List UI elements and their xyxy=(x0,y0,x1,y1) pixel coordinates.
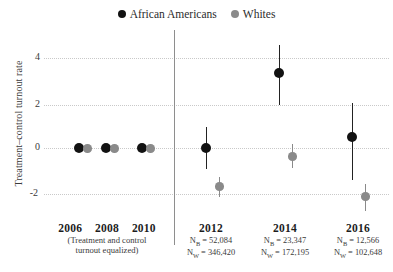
point-2012-african-americans xyxy=(201,143,211,153)
x-n-white-2012: NW = 346,420 xyxy=(171,248,251,260)
point-2006-whites xyxy=(83,144,92,153)
y-tick-2: 2 xyxy=(20,98,40,109)
y-tick-4: 4 xyxy=(20,51,40,62)
figure: African Americans Whites Treatment–contr… xyxy=(0,0,393,272)
x-label-2014: 2014 xyxy=(245,222,325,234)
n-value: = 52,084 xyxy=(200,236,232,245)
pre-period-note-line2: turnout equalized) xyxy=(42,245,172,255)
x-n-white-2016: NW = 102,648 xyxy=(318,248,393,260)
n-value: = 172,195 xyxy=(273,248,309,257)
point-2016-african-americans xyxy=(347,132,357,142)
y-tick-0: 0 xyxy=(20,141,40,152)
y-axis-label: Treatment–control turnout rate xyxy=(13,44,24,204)
point-2014-african-americans xyxy=(274,68,284,78)
y-tick-neg2: -2 xyxy=(18,187,38,198)
x-label-2008: 2008 xyxy=(95,222,119,234)
gridline-2 xyxy=(44,105,389,106)
x-label-2012: 2012 xyxy=(171,222,251,234)
gridline-neg2 xyxy=(44,194,389,195)
point-2012-whites xyxy=(215,182,224,191)
x-n-black-2016: NB = 12,566 xyxy=(318,236,393,248)
x-group-pre-period: 2006 2008 2010 (Treatment and control tu… xyxy=(42,222,172,256)
n-value: = 102,648 xyxy=(346,248,382,257)
gridline-4 xyxy=(44,58,389,59)
point-2010-whites xyxy=(146,144,155,153)
x-n-black-2014: NB = 23,347 xyxy=(245,236,325,248)
point-2016-whites xyxy=(361,192,370,201)
x-label-2006: 2006 xyxy=(58,222,82,234)
point-2014-whites xyxy=(288,152,297,161)
pre-period-years: 2006 2008 2010 xyxy=(42,222,172,234)
pre-period-note-line1: (Treatment and control xyxy=(42,235,172,245)
x-n-white-2014: NW = 172,195 xyxy=(245,248,325,260)
x-group-2012: 2012 NB = 52,084 NW = 346,420 xyxy=(171,222,251,260)
point-2008-whites xyxy=(110,144,119,153)
period-divider xyxy=(174,30,175,245)
x-group-2016: 2016 NB = 12,566 NW = 102,648 xyxy=(318,222,393,260)
x-label-2010: 2010 xyxy=(132,222,156,234)
n-value: = 346,420 xyxy=(199,248,235,257)
x-label-2016: 2016 xyxy=(318,222,393,234)
x-group-2014: 2014 NB = 23,347 NW = 172,195 xyxy=(245,222,325,260)
n-value: = 23,347 xyxy=(274,236,306,245)
x-n-black-2012: NB = 52,084 xyxy=(171,236,251,248)
n-value: = 12,566 xyxy=(347,236,379,245)
gridline-0 xyxy=(44,148,389,149)
